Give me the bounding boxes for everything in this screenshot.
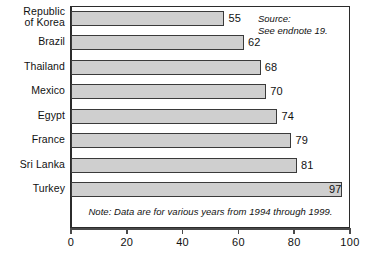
bar-value-label: 70: [266, 84, 283, 99]
x-axis-tick: [293, 228, 295, 234]
bar-value-label: 68: [261, 60, 278, 75]
bar: [71, 84, 266, 99]
bar: [71, 133, 291, 148]
x-axis-tick-label: 100: [340, 236, 359, 248]
x-axis-tick-label: 20: [120, 236, 133, 248]
value-axis-line-horizontal: [70, 228, 350, 230]
bar: [71, 60, 261, 75]
category-label: Brazil: [38, 36, 65, 47]
x-axis-tick: [238, 228, 240, 234]
bar-value-label: 55: [224, 11, 241, 26]
bar-value-label: 81: [297, 158, 314, 173]
category-label: Republic of Korea: [23, 6, 65, 28]
x-axis-tick: [70, 228, 72, 234]
bar-value-label: 62: [244, 35, 261, 50]
x-axis-tick-label: 80: [288, 236, 301, 248]
category-axis-labels: Republic of KoreaBrazilThailandMexicoEgy…: [0, 6, 68, 202]
bar: [71, 158, 297, 173]
x-axis-tick-label: 0: [68, 236, 74, 248]
source-annotation: Source: See endnote 19.: [258, 13, 328, 37]
x-axis-tick: [182, 228, 184, 234]
category-label: Sri Lanka: [20, 159, 65, 170]
category-label: Thailand: [24, 61, 65, 72]
x-axis-tick: [126, 228, 128, 234]
bar-value-label: 79: [291, 133, 308, 148]
bar: [71, 11, 224, 26]
bar-value-label: 74: [277, 109, 294, 124]
category-label: France: [32, 134, 65, 145]
category-label: Mexico: [31, 85, 65, 96]
x-axis-tick-label: 40: [176, 236, 189, 248]
bar: [71, 35, 244, 50]
x-axis-tick: [349, 228, 351, 234]
note-annotation: Note: Data are for various years from 19…: [71, 206, 350, 217]
bar-value-label: 97: [71, 182, 346, 197]
bar: [71, 109, 277, 124]
category-label: Turkey: [33, 183, 65, 194]
category-label: Egypt: [38, 110, 65, 121]
x-axis-tick-label: 60: [232, 236, 245, 248]
bar-chart: Republic of KoreaBrazilThailandMexicoEgy…: [0, 0, 376, 264]
